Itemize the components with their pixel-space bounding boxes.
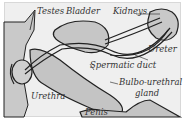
label-bladder: Bladder — [66, 7, 100, 16]
label-bulbo-urethral-line2: gland — [135, 89, 159, 98]
penis-shape — [30, 49, 123, 114]
label-ureter: Ureter — [148, 45, 177, 54]
label-spermatic-duct: Spermatic duct — [90, 61, 156, 70]
testis-shape — [12, 60, 32, 84]
label-urethra: Urethra — [31, 92, 65, 101]
label-bulbo-urethral-line1: Bulbo-urethral — [119, 78, 182, 87]
label-testes: Testes — [37, 7, 64, 16]
label-penis: Penis — [85, 108, 108, 117]
label-kidneys: Kidneys — [113, 7, 147, 16]
